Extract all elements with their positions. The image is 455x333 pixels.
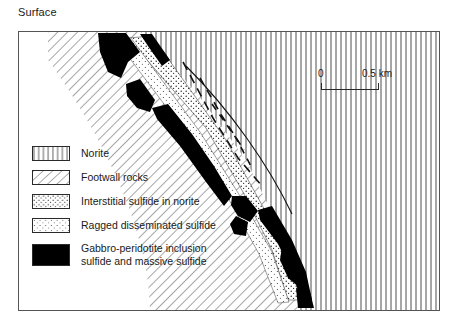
swatch-solid-black (32, 244, 70, 266)
scale-bar: 0 0.5 km (318, 68, 418, 90)
legend-item-footwall-rocks: Footwall rocks (32, 170, 247, 187)
legend-label-footwall-rocks: Footwall rocks (81, 170, 148, 184)
legend-item-norite: Norite (32, 146, 247, 163)
swatch-diagonal-lines (32, 170, 70, 185)
legend-label-interstitial-sulfide: Interstitial sulfide in norite (81, 194, 199, 208)
legend-label-ragged-disseminated-sulfide: Ragged disseminated sulfide (81, 218, 216, 232)
scale-max-label: 0.5 km (362, 68, 392, 79)
scale-min-label: 0 (318, 68, 324, 79)
geologic-cross-section-figure: Surface (0, 0, 455, 333)
legend-item-interstitial-sulfide: Interstitial sulfide in norite (32, 194, 247, 211)
swatch-vertical-lines (32, 146, 70, 161)
legend-item-massive-sulfide: Gabbro-peridotite inclusion sulfide and … (32, 242, 247, 268)
swatch-sparse-stipple (32, 218, 70, 233)
legend-item-ragged-disseminated-sulfide: Ragged disseminated sulfide (32, 218, 247, 235)
legend-label-norite: Norite (81, 146, 109, 160)
legend: Norite Footwall rocks Interstitial sulfi… (32, 146, 247, 275)
legend-label-massive-sulfide: Gabbro-peridotite inclusion sulfide and … (81, 242, 207, 268)
swatch-dense-stipple (32, 194, 70, 209)
scale-bar-ruler (321, 83, 379, 90)
